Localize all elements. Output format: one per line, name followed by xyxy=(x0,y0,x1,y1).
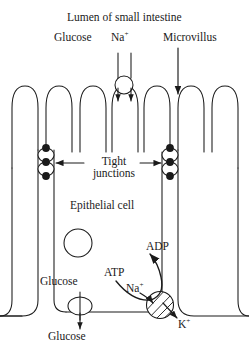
label-tight-junctions: Tight junctions xyxy=(86,155,142,179)
label-tight-junctions-line2: junctions xyxy=(93,167,135,179)
central-cell-left-wall-outer xyxy=(0,150,38,316)
label-glucose-basal: Glucose xyxy=(48,330,86,342)
label-tight-junctions-line1: Tight xyxy=(102,155,127,167)
label-glucose-cytoplasm: Glucose xyxy=(40,275,78,287)
nucleus xyxy=(64,229,92,257)
label-sodium-apical: Na+ xyxy=(111,31,128,43)
microvillus-6 xyxy=(178,86,204,152)
tight-junction-right xyxy=(162,144,178,180)
label-microvillus: Microvillus xyxy=(163,31,217,43)
microvillus-5 xyxy=(144,86,170,152)
tight-junction-left xyxy=(38,144,54,180)
label-adp: ADP xyxy=(146,240,169,252)
central-cell-right-wall-inner xyxy=(150,152,162,312)
label-sodium-pump-text: Na xyxy=(126,282,139,294)
label-potassium-pump-charge: + xyxy=(186,317,190,325)
label-atp: ATP xyxy=(104,266,124,278)
sodium-potassium-pump xyxy=(143,289,180,325)
microvillus-1 xyxy=(12,86,38,168)
diagram-canvas: Lumen of small intestine Glucose Na+ Mic… xyxy=(0,0,249,355)
label-lumen: Lumen of small intestine xyxy=(67,11,182,23)
left-neighbor-cell-wall xyxy=(0,168,12,316)
label-sodium-apical-text: Na xyxy=(111,31,124,43)
label-sodium-pump-charge: + xyxy=(139,281,143,289)
right-neighbor-cell-wall xyxy=(238,168,249,316)
central-cell-left-wall-inner xyxy=(54,150,66,312)
microvillus-2 xyxy=(46,86,72,152)
label-sodium-apical-charge: + xyxy=(124,30,128,38)
microvillus-3 xyxy=(80,86,106,152)
label-sodium-pump: Na+ xyxy=(126,282,143,294)
label-potassium-pump: K+ xyxy=(178,318,190,330)
label-epithelial-cell: Epithelial cell xyxy=(70,199,134,211)
microvillus-7 xyxy=(212,86,238,168)
microvillus-4-cotransport xyxy=(112,86,138,152)
label-glucose-apical: Glucose xyxy=(54,31,92,43)
